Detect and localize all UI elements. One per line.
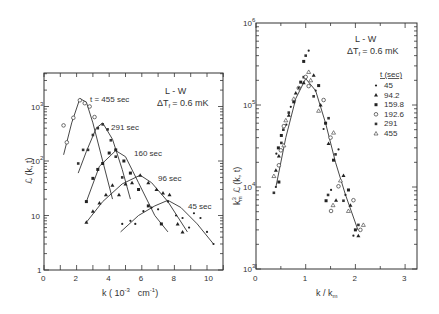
data-point [77,162,80,165]
right-data-points [272,50,365,238]
data-point [78,98,82,102]
data-point [361,223,365,227]
data-point [334,198,338,202]
right-axis-ticks: 0123103104105106 [243,17,417,283]
data-point [167,200,169,202]
data-point [104,193,108,197]
data-point [322,128,324,130]
data-point [129,172,132,175]
data-point [332,131,336,135]
data-point [334,153,337,156]
data-point [96,168,99,171]
data-point [352,235,354,237]
data-point [375,123,378,126]
data-point [374,113,378,117]
left-y-axis-label: ℒ (k, t) [24,158,34,185]
y-tick-label: 104 [243,181,256,192]
legend-title: t (sec) [380,70,403,79]
x-tick-label: 3 [402,274,407,283]
data-point [193,212,195,214]
data-point [341,174,345,178]
data-point [280,142,283,145]
data-point [87,149,90,152]
legend-item: 45 [384,81,393,90]
data-point [106,128,109,131]
y-tick-label: 1 [37,266,42,275]
data-point [282,124,286,128]
right-fit-curve [276,79,358,230]
data-point [114,148,117,151]
right-panel: 0123103104105106 L - W ΔTf= 0.6 mK t (se… [231,17,417,299]
data-point [346,209,350,213]
data-point [114,155,117,158]
data-point [331,203,335,207]
right-panel-subtitle: ΔTf= 0.6 mK [347,46,398,57]
data-point [137,188,140,191]
data-point [280,134,283,137]
data-point [85,200,88,203]
data-point [292,97,296,101]
data-point [138,173,142,177]
y-tick-label: 10 [31,212,40,221]
left-panel: 0246810110102103 L - W ΔTf= 0.6 mK t = 4… [24,73,223,298]
data-point [337,148,339,150]
data-point [91,209,95,213]
data-point [65,141,69,145]
legend-item: 94.2 [384,91,400,100]
data-point [337,184,341,188]
data-point [101,123,104,126]
data-point [97,201,101,205]
data-point [108,152,111,155]
data-point [275,153,277,155]
data-point [181,217,183,219]
legend: t (sec) 4594.2159.8192.6291455 [374,70,405,138]
data-point [290,106,292,108]
data-point [294,91,298,95]
right-plot-frame [256,23,417,269]
data-point [121,223,123,225]
data-point [277,154,281,158]
data-point [188,226,190,228]
data-point [279,149,283,153]
data-point [157,208,159,210]
data-point [354,228,357,231]
data-point [284,118,288,122]
data-point [292,100,295,103]
series-label-45: 45 sec [188,202,212,211]
data-point [273,191,276,194]
data-point [327,117,330,120]
data-point [274,168,278,172]
data-point [212,243,214,245]
data-point [309,78,313,82]
right-panel-title: L - W [355,34,377,44]
x-tick-label: 4 [106,274,111,283]
y-tick-label: 105 [243,99,256,110]
data-point [88,105,92,109]
x-tick-label: 1 [303,274,308,283]
data-point [332,159,335,162]
data-point [317,84,320,87]
figure: 0246810110102103 L - W ΔTf= 0.6 mK t = 4… [0,0,439,314]
data-point [117,193,121,197]
data-point [347,188,350,191]
data-point [272,174,276,178]
series-label-160: 160 sec [134,149,162,158]
y-tick-label: 106 [243,17,256,28]
data-point [287,111,290,114]
data-point [359,228,363,232]
left-panel-subtitle: ΔTf= 0.6 mK [157,98,208,109]
data-point [330,189,332,191]
data-point [352,198,356,202]
data-point [375,103,378,106]
left-data-points [62,98,215,245]
legend-item: 159.8 [384,100,405,109]
data-point [304,54,307,57]
data-point [121,176,124,179]
x-tick-label: 2 [74,274,79,283]
series-label-455: t = 455 sec [90,95,129,104]
data-point [304,75,308,79]
data-point [307,70,311,74]
data-point [298,87,300,89]
data-point [277,181,280,184]
x-tick-label: 0 [41,274,46,283]
